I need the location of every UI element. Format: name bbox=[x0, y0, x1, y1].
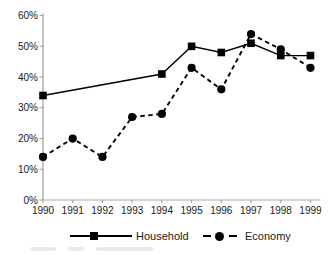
household-line-marker-icon bbox=[70, 229, 132, 243]
household-data-point bbox=[277, 52, 285, 60]
household-data-point bbox=[218, 49, 226, 57]
household-series-line bbox=[43, 43, 311, 95]
economy-dashed-marker-icon bbox=[203, 229, 237, 243]
legend-entry-economy: Economy bbox=[203, 228, 291, 244]
economy-data-point bbox=[39, 153, 47, 161]
economy-data-point bbox=[188, 64, 196, 72]
economy-data-point bbox=[98, 153, 106, 161]
economy-series-line bbox=[43, 34, 311, 157]
economy-data-point bbox=[128, 113, 136, 121]
x-axis-label: 1990 bbox=[32, 205, 55, 216]
y-axis-label: 50% bbox=[18, 41, 38, 52]
economy-data-point bbox=[69, 134, 77, 142]
y-axis-label: 30% bbox=[18, 102, 38, 113]
x-axis-label: 1991 bbox=[62, 205, 85, 216]
chart-legend: Household Economy bbox=[0, 228, 335, 244]
line-chart-container: 1990199119921993199419951996199719981999… bbox=[0, 0, 335, 255]
economy-data-point bbox=[217, 85, 225, 93]
economy-data-point bbox=[247, 30, 255, 38]
y-axis-label: 40% bbox=[18, 72, 38, 83]
household-data-point bbox=[188, 43, 196, 51]
legend-entry-household: Household bbox=[70, 228, 189, 244]
economy-data-point bbox=[158, 110, 166, 118]
y-axis-label: 20% bbox=[18, 133, 38, 144]
x-axis-label: 1995 bbox=[180, 205, 203, 216]
line-chart-plot: 1990199119921993199419951996199719981999… bbox=[0, 0, 335, 255]
x-axis-label: 1992 bbox=[91, 205, 114, 216]
legend-label-household: Household bbox=[136, 230, 189, 242]
economy-data-point bbox=[306, 64, 314, 72]
x-axis-label: 1994 bbox=[151, 205, 174, 216]
y-axis-label: 0% bbox=[24, 195, 39, 206]
household-data-point bbox=[158, 70, 166, 78]
y-axis-label: 10% bbox=[18, 164, 38, 175]
x-axis-label: 1999 bbox=[299, 205, 322, 216]
household-data-point bbox=[307, 52, 315, 60]
legend-label-economy: Economy bbox=[245, 230, 291, 242]
x-axis-label: 1996 bbox=[210, 205, 233, 216]
household-data-point bbox=[247, 39, 255, 47]
x-axis-label: 1997 bbox=[240, 205, 263, 216]
x-axis-label: 1998 bbox=[270, 205, 293, 216]
household-data-point bbox=[39, 92, 47, 100]
y-axis-label: 60% bbox=[18, 10, 38, 21]
x-axis-label: 1993 bbox=[121, 205, 144, 216]
